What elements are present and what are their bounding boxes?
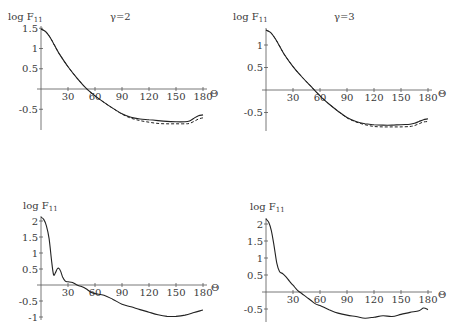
x-tick-label: 120 bbox=[364, 92, 383, 103]
x-tick-label: 180 bbox=[193, 287, 212, 298]
x-tick-label: 180 bbox=[418, 294, 437, 305]
y-tick-label: -0.5 bbox=[19, 296, 38, 307]
x-tick-label: 30 bbox=[287, 92, 300, 103]
panel-lower-right: log F11 Θ 30609012015018021.510.5-0.5 bbox=[244, 201, 447, 322]
y-tick-label: 0.5 bbox=[22, 264, 38, 275]
y-tick-label: 1.5 bbox=[22, 232, 38, 243]
series-solid-line bbox=[266, 30, 428, 125]
y-tick-label: 1 bbox=[32, 43, 38, 54]
y-axis-label: log F11 bbox=[233, 11, 268, 24]
x-tick-label: 90 bbox=[116, 287, 129, 298]
series-solid-line bbox=[41, 217, 203, 316]
y-tick-label: 2 bbox=[257, 219, 263, 230]
x-tick-label: 120 bbox=[364, 294, 383, 305]
x-axis-label: Θ bbox=[438, 88, 446, 99]
y-tick-label: -0.5 bbox=[244, 107, 263, 118]
y-axis-label: log F11 bbox=[23, 200, 58, 213]
y-tick-label: 0.5 bbox=[247, 270, 263, 281]
x-tick-label: 150 bbox=[391, 294, 410, 305]
x-axis-label: Θ bbox=[438, 289, 446, 300]
y-tick-label: 0.5 bbox=[22, 63, 38, 74]
y-tick-label: 2 bbox=[32, 216, 38, 227]
x-tick-label: 90 bbox=[116, 91, 129, 102]
series-dashed-line bbox=[41, 29, 203, 124]
series-dashed-line bbox=[266, 30, 428, 127]
panel-gamma-2: log F11 γ=2 Θ 3060901201501801.510.5-0.5 bbox=[8, 11, 218, 130]
x-tick-label: 120 bbox=[139, 287, 158, 298]
y-tick-label: 1 bbox=[257, 253, 263, 264]
x-tick-label: 180 bbox=[193, 91, 212, 102]
x-tick-label: 60 bbox=[314, 92, 327, 103]
y-tick-label: 1.5 bbox=[247, 236, 263, 247]
y-tick-label: -0.5 bbox=[244, 304, 263, 315]
x-tick-label: 30 bbox=[62, 91, 75, 102]
y-axis-label: log F11 bbox=[250, 201, 285, 214]
series-solid-line bbox=[41, 29, 203, 122]
x-tick-label: 90 bbox=[341, 294, 354, 305]
x-tick-label: 150 bbox=[166, 91, 185, 102]
figure-panels: log F11 γ=2 Θ 3060901201501801.510.5-0.5… bbox=[0, 0, 460, 330]
y-tick-label: 1 bbox=[32, 248, 38, 259]
panel-lower-left: log F11 Θ 30609012015018021.510.5-0.5-1 bbox=[19, 200, 220, 323]
x-tick-label: 90 bbox=[341, 92, 354, 103]
x-tick-label: 150 bbox=[391, 92, 410, 103]
panel-gamma-3: log F11 γ=3 Θ 30609012015018010.5-0.5 bbox=[233, 11, 446, 131]
y-tick-label: -0.5 bbox=[19, 104, 38, 115]
x-tick-label: 30 bbox=[62, 287, 75, 298]
x-tick-label: 180 bbox=[418, 92, 437, 103]
y-tick-label: 1.5 bbox=[22, 23, 38, 34]
x-tick-label: 120 bbox=[139, 91, 158, 102]
panel-title: γ=3 bbox=[334, 11, 355, 22]
x-tick-label: 30 bbox=[287, 294, 300, 305]
y-tick-label: -1 bbox=[28, 312, 38, 323]
panel-title: γ=2 bbox=[110, 11, 131, 22]
x-tick-label: 150 bbox=[166, 287, 185, 298]
y-tick-label: 0.5 bbox=[247, 62, 263, 73]
y-tick-label: 1 bbox=[257, 40, 263, 51]
